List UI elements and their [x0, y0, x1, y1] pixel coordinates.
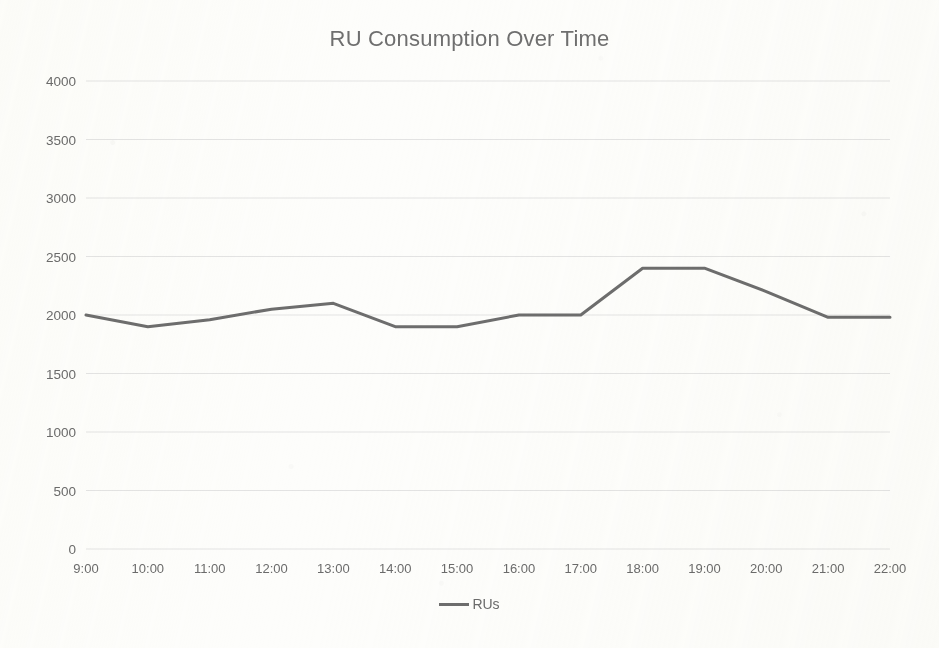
legend-line-marker-icon [439, 603, 469, 606]
plot-area [0, 0, 939, 648]
x-axis-tick-label: 16:00 [503, 561, 536, 576]
x-axis-tick-label: 11:00 [194, 561, 226, 576]
data-series-group [86, 268, 890, 327]
x-axis-tick-label: 13:00 [317, 561, 350, 576]
x-axis-tick-label: 12:00 [255, 561, 288, 576]
legend-label-rus: RUs [472, 596, 499, 612]
x-axis-tick-label: 9:00 [73, 561, 98, 576]
x-axis-tick-label: 22:00 [874, 561, 907, 576]
x-axis-tick-label: 15:00 [441, 561, 474, 576]
data-line-rus [86, 268, 890, 327]
chart-legend: RUs [0, 596, 939, 612]
x-axis-tick-label: 18:00 [626, 561, 659, 576]
chart-container: RU Consumption Over Time 050010001500200… [0, 0, 939, 648]
x-axis-tick-label: 20:00 [750, 561, 783, 576]
gridlines [86, 81, 890, 549]
x-axis-tick-label: 21:00 [812, 561, 845, 576]
x-axis-tick-label: 19:00 [688, 561, 721, 576]
x-axis-tick-label: 17:00 [564, 561, 597, 576]
x-axis-tick-label: 14:00 [379, 561, 412, 576]
x-axis-tick-label: 10:00 [132, 561, 165, 576]
